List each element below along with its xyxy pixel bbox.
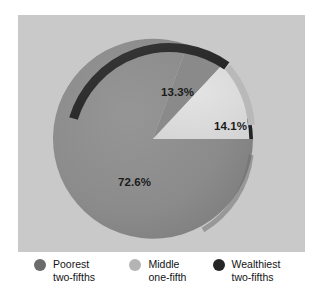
legend-item-wealthiest[interactable]: Wealthiest two-fifths bbox=[213, 258, 294, 283]
legend-label-wealthiest-line2: two-fifths bbox=[232, 271, 281, 284]
legend-marker-wealthiest-icon bbox=[213, 259, 225, 271]
pie-chart-area: 72.6% 13.3% 14.1% bbox=[18, 15, 305, 252]
legend-label-poorest-line1: Poorest bbox=[53, 258, 89, 270]
pie-svg bbox=[18, 15, 305, 252]
slice-label-middle: 13.3% bbox=[161, 86, 194, 98]
legend-marker-middle-icon bbox=[129, 259, 141, 271]
slice-label-poorest: 72.6% bbox=[118, 176, 151, 188]
legend-label-poorest: Poorest two-fifths bbox=[53, 258, 95, 283]
legend-label-wealthiest-line1: Wealthiest bbox=[232, 258, 281, 270]
pie-chart-figure: 72.6% 13.3% 14.1% Poorest two-fifths Mid… bbox=[0, 0, 326, 297]
legend-item-poorest[interactable]: Poorest two-fifths bbox=[34, 258, 115, 283]
legend-item-middle[interactable]: Middle one-fifth bbox=[129, 258, 198, 283]
legend-label-wealthiest: Wealthiest two-fifths bbox=[232, 258, 281, 283]
legend-label-middle-line2: one-fifth bbox=[148, 271, 186, 284]
legend-marker-poorest-icon bbox=[34, 259, 46, 271]
chart-legend: Poorest two-fifths Middle one-fifth Weal… bbox=[18, 258, 308, 292]
legend-label-poorest-line2: two-fifths bbox=[53, 271, 95, 284]
legend-label-middle: Middle one-fifth bbox=[148, 258, 186, 283]
slice-label-wealthiest: 14.1% bbox=[214, 120, 247, 132]
legend-label-middle-line1: Middle bbox=[148, 258, 179, 270]
